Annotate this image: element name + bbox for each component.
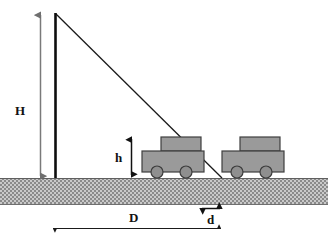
- cart-left-wheel-rear: [180, 166, 192, 178]
- cart-right-wheel-rear: [260, 166, 272, 178]
- cart-right: [222, 137, 284, 178]
- diagram-canvas: [0, 0, 328, 243]
- ground-band: [0, 178, 328, 205]
- cart-height-label: h: [115, 151, 122, 164]
- ground-distance-label: D: [129, 211, 138, 224]
- pole-height-label: H: [15, 104, 25, 117]
- cart-right-upper-box: [240, 137, 280, 151]
- cart-left-wheel-front: [151, 166, 163, 178]
- physics-diagram: H h D d: [0, 0, 328, 243]
- cart-left-upper-box: [161, 137, 201, 151]
- cart-gap-label: d: [207, 213, 214, 226]
- cart-right-wheel-front: [231, 166, 243, 178]
- cart-left: [142, 137, 204, 178]
